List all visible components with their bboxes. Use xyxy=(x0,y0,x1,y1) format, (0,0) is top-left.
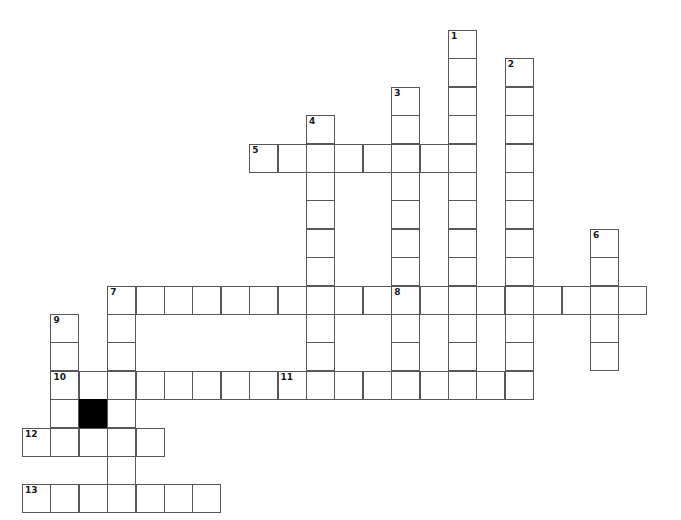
grid-cell[interactable] xyxy=(505,229,534,258)
grid-cell[interactable] xyxy=(505,342,534,371)
grid-cell[interactable] xyxy=(448,200,477,229)
grid-cell[interactable] xyxy=(306,257,335,286)
grid-cell[interactable] xyxy=(164,286,193,315)
grid-cell[interactable] xyxy=(136,286,165,315)
grid-cell[interactable] xyxy=(136,428,165,457)
grid-cell[interactable] xyxy=(363,371,392,400)
crossword-grid[interactable]: 12345678910111213 xyxy=(0,0,681,520)
grid-cell[interactable] xyxy=(221,286,250,315)
grid-cell[interactable] xyxy=(79,484,108,513)
grid-cell[interactable] xyxy=(505,172,534,201)
grid-cell[interactable] xyxy=(448,144,477,173)
grid-cell[interactable] xyxy=(420,286,449,315)
grid-cell[interactable] xyxy=(50,428,79,457)
grid-cell[interactable] xyxy=(391,144,420,173)
grid-cell[interactable] xyxy=(448,314,477,343)
grid-cell[interactable] xyxy=(391,200,420,229)
grid-cell[interactable] xyxy=(448,58,477,87)
grid-cell[interactable] xyxy=(192,371,221,400)
grid-cell[interactable]: 10 xyxy=(50,371,79,400)
grid-cell[interactable]: 6 xyxy=(590,229,619,258)
grid-cell[interactable] xyxy=(107,428,136,457)
grid-cell[interactable] xyxy=(221,371,250,400)
grid-cell[interactable]: 3 xyxy=(391,87,420,116)
grid-cell[interactable] xyxy=(306,371,335,400)
grid-cell[interactable] xyxy=(192,484,221,513)
grid-cell[interactable] xyxy=(590,314,619,343)
grid-cell[interactable] xyxy=(420,371,449,400)
grid-cell[interactable]: 13 xyxy=(22,484,51,513)
grid-cell[interactable] xyxy=(107,456,136,485)
grid-cell[interactable] xyxy=(476,371,505,400)
grid-cell[interactable] xyxy=(391,172,420,201)
grid-cell[interactable] xyxy=(107,342,136,371)
grid-cell[interactable] xyxy=(79,428,108,457)
grid-cell[interactable] xyxy=(164,484,193,513)
grid-cell[interactable]: 9 xyxy=(50,314,79,343)
grid-cell[interactable] xyxy=(363,286,392,315)
grid-cell[interactable] xyxy=(306,144,335,173)
grid-cell[interactable] xyxy=(590,257,619,286)
grid-cell[interactable] xyxy=(79,371,108,400)
grid-cell[interactable] xyxy=(192,286,221,315)
grid-cell[interactable] xyxy=(363,144,392,173)
grid-cell[interactable] xyxy=(590,286,619,315)
grid-cell[interactable] xyxy=(448,172,477,201)
grid-cell[interactable] xyxy=(306,314,335,343)
grid-cell[interactable] xyxy=(107,484,136,513)
grid-cell[interactable]: 1 xyxy=(448,30,477,59)
grid-cell[interactable] xyxy=(448,87,477,116)
grid-cell[interactable]: 7 xyxy=(107,286,136,315)
grid-cell[interactable]: 5 xyxy=(249,144,278,173)
grid-cell[interactable] xyxy=(562,286,591,315)
grid-cell[interactable] xyxy=(505,200,534,229)
grid-cell[interactable] xyxy=(448,286,477,315)
grid-cell[interactable] xyxy=(448,371,477,400)
grid-cell[interactable] xyxy=(306,200,335,229)
grid-cell[interactable] xyxy=(448,229,477,258)
grid-cell[interactable] xyxy=(50,399,79,428)
grid-cell[interactable] xyxy=(107,399,136,428)
grid-cell[interactable] xyxy=(448,342,477,371)
grid-cell[interactable] xyxy=(618,286,647,315)
grid-cell[interactable]: 12 xyxy=(22,428,51,457)
grid-cell[interactable] xyxy=(306,286,335,315)
grid-cell[interactable] xyxy=(505,144,534,173)
grid-cell[interactable] xyxy=(50,342,79,371)
grid-cell[interactable] xyxy=(278,286,307,315)
grid-cell[interactable] xyxy=(249,286,278,315)
grid-cell[interactable] xyxy=(505,257,534,286)
grid-cell[interactable] xyxy=(391,115,420,144)
grid-cell[interactable] xyxy=(505,371,534,400)
grid-cell[interactable] xyxy=(391,371,420,400)
grid-cell[interactable] xyxy=(107,314,136,343)
grid-cell[interactable] xyxy=(164,371,193,400)
grid-cell[interactable] xyxy=(505,314,534,343)
grid-cell[interactable] xyxy=(590,342,619,371)
grid-cell[interactable] xyxy=(391,314,420,343)
grid-cell[interactable] xyxy=(391,257,420,286)
grid-cell[interactable] xyxy=(448,257,477,286)
grid-cell[interactable] xyxy=(505,115,534,144)
grid-cell[interactable] xyxy=(476,286,505,315)
grid-cell[interactable] xyxy=(391,229,420,258)
grid-cell[interactable] xyxy=(334,144,363,173)
grid-cell[interactable] xyxy=(107,371,136,400)
grid-cell[interactable] xyxy=(306,342,335,371)
grid-cell[interactable]: 11 xyxy=(278,371,307,400)
grid-cell[interactable] xyxy=(334,286,363,315)
grid-cell[interactable] xyxy=(505,286,534,315)
grid-cell[interactable] xyxy=(533,286,562,315)
grid-cell[interactable] xyxy=(136,371,165,400)
grid-cell[interactable] xyxy=(278,144,307,173)
grid-cell[interactable] xyxy=(249,371,278,400)
grid-cell[interactable] xyxy=(136,484,165,513)
grid-cell[interactable]: 2 xyxy=(505,58,534,87)
grid-cell[interactable] xyxy=(334,371,363,400)
grid-cell[interactable] xyxy=(50,484,79,513)
grid-cell[interactable] xyxy=(306,172,335,201)
grid-cell[interactable]: 8 xyxy=(391,286,420,315)
grid-cell[interactable] xyxy=(306,229,335,258)
grid-cell[interactable] xyxy=(448,115,477,144)
grid-cell[interactable] xyxy=(420,144,449,173)
